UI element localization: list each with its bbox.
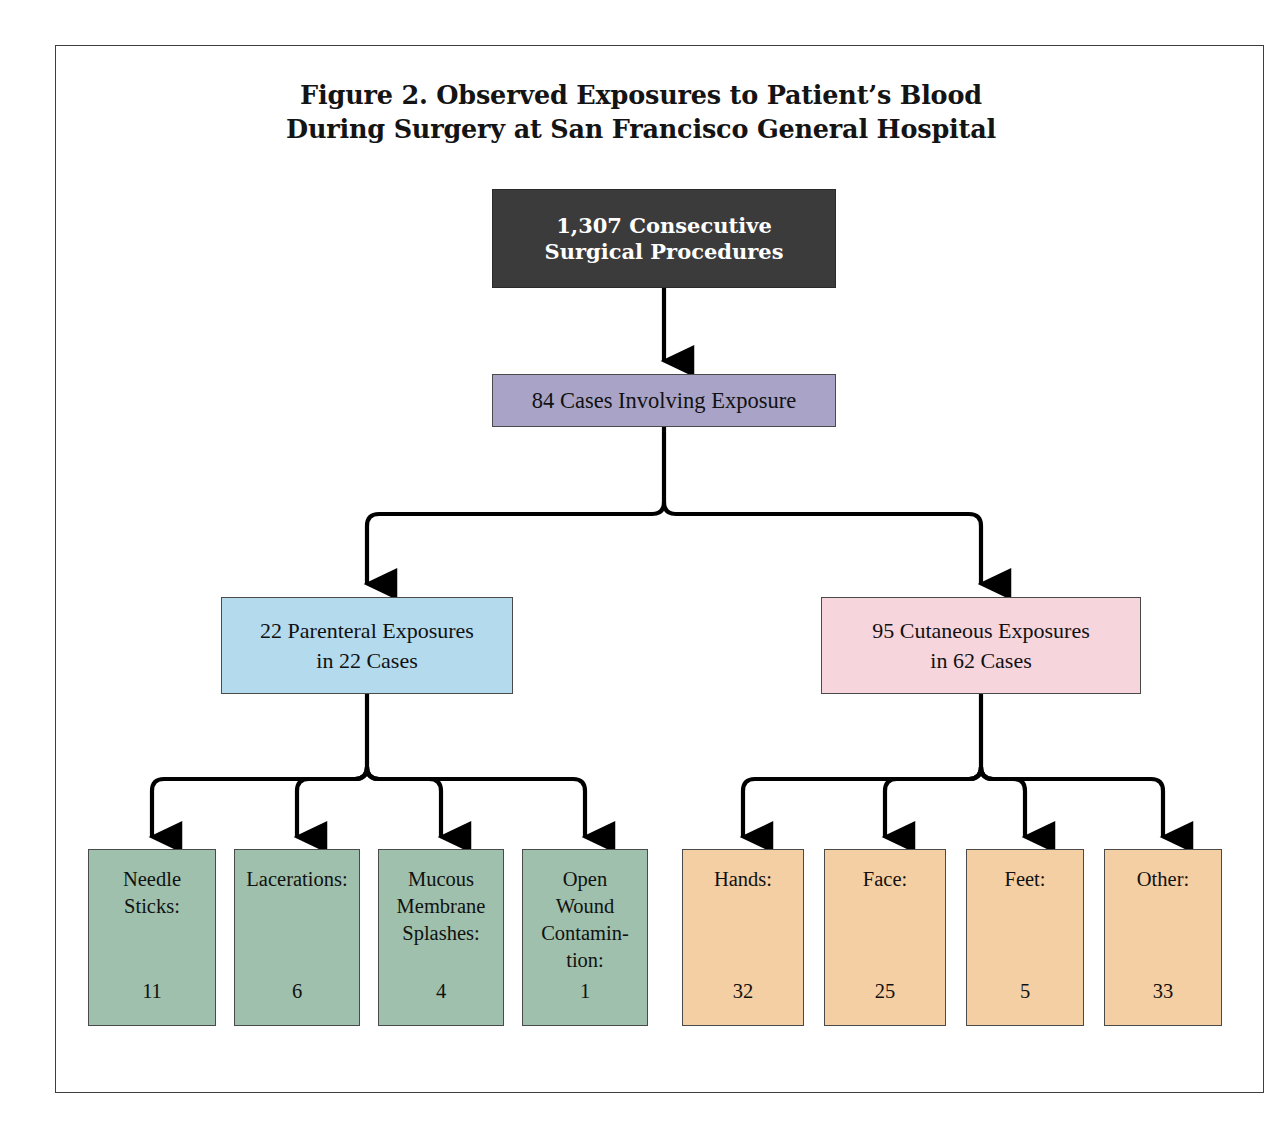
leaf-hands-label: Hands: xyxy=(714,866,772,893)
node-total-procedures-text: 1,307 Consecutive Surgical Procedures xyxy=(544,213,783,265)
figure-container: Figure 2. Observed Exposures to Patient’… xyxy=(0,0,1282,1136)
leaf-other-line-1: Other: xyxy=(1137,866,1189,893)
leaf-other[interactable]: Other: 33 xyxy=(1104,849,1222,1026)
leaf-needle-sticks-label: Needle Sticks: xyxy=(123,866,181,920)
leaf-face-line-1: Face: xyxy=(863,866,907,893)
node-cutaneous-line-1: 95 Cutaneous Exposures xyxy=(872,616,1090,646)
node-cutaneous-exposures[interactable]: 95 Cutaneous Exposures in 62 Cases xyxy=(821,597,1141,694)
leaf-open-wound-contamination-line-3: Contamin- xyxy=(541,920,629,947)
leaf-mucous-membrane-splashes-count: 4 xyxy=(436,978,446,1005)
leaf-open-wound-contamination-count: 1 xyxy=(580,978,590,1005)
figure-title: Figure 2. Observed Exposures to Patient’… xyxy=(0,78,1282,146)
leaf-lacerations-label: Lacerations: xyxy=(246,866,347,893)
node-total-procedures[interactable]: 1,307 Consecutive Surgical Procedures xyxy=(492,189,836,288)
leaf-needle-sticks-count: 11 xyxy=(142,978,162,1005)
leaf-face[interactable]: Face: 25 xyxy=(824,849,946,1026)
leaf-lacerations[interactable]: Lacerations: 6 xyxy=(234,849,360,1026)
leaf-needle-sticks-line-2: Sticks: xyxy=(124,893,180,920)
node-cutaneous-line-2: in 62 Cases xyxy=(930,646,1031,676)
node-cutaneous-text: 95 Cutaneous Exposures in 62 Cases xyxy=(872,616,1090,676)
node-cases-line-1: 84 Cases Involving Exposure xyxy=(532,388,796,414)
leaf-hands[interactable]: Hands: 32 xyxy=(682,849,804,1026)
figure-title-line-1: Figure 2. Observed Exposures to Patient’… xyxy=(0,78,1282,112)
leaf-needle-sticks-line-1: Needle xyxy=(123,866,181,893)
leaf-mucous-membrane-splashes-line-3: Splashes: xyxy=(402,920,479,947)
node-total-procedures-line-1: 1,307 Consecutive xyxy=(556,213,772,239)
leaf-open-wound-contamination-label: Open Wound Contamin- tion: xyxy=(541,866,629,974)
leaf-open-wound-contamination-line-2: Wound xyxy=(556,893,615,920)
leaf-other-count: 33 xyxy=(1153,978,1174,1005)
leaf-hands-line-1: Hands: xyxy=(714,866,772,893)
node-parenteral-text: 22 Parenteral Exposures in 22 Cases xyxy=(260,616,474,676)
leaf-face-label: Face: xyxy=(863,866,907,893)
node-cases-involving-exposure[interactable]: 84 Cases Involving Exposure xyxy=(492,374,836,427)
leaf-feet-count: 5 xyxy=(1020,978,1030,1005)
leaf-mucous-membrane-splashes[interactable]: Mucous Membrane Splashes: 4 xyxy=(378,849,504,1026)
leaf-needle-sticks[interactable]: Needle Sticks: 11 xyxy=(88,849,216,1026)
leaf-lacerations-line-1: Lacerations: xyxy=(246,866,347,893)
leaf-open-wound-contamination[interactable]: Open Wound Contamin- tion: 1 xyxy=(522,849,648,1026)
leaf-open-wound-contamination-line-1: Open xyxy=(563,866,607,893)
node-parenteral-line-2: in 22 Cases xyxy=(316,646,417,676)
leaf-other-label: Other: xyxy=(1137,866,1189,893)
node-parenteral-exposures[interactable]: 22 Parenteral Exposures in 22 Cases xyxy=(221,597,513,694)
leaf-mucous-membrane-splashes-line-1: Mucous xyxy=(408,866,474,893)
leaf-feet[interactable]: Feet: 5 xyxy=(966,849,1084,1026)
leaf-feet-line-1: Feet: xyxy=(1005,866,1046,893)
figure-title-line-2: During Surgery at San Francisco General … xyxy=(0,112,1282,146)
node-parenteral-line-1: 22 Parenteral Exposures xyxy=(260,616,474,646)
leaf-mucous-membrane-splashes-label: Mucous Membrane Splashes: xyxy=(397,866,486,947)
leaf-lacerations-count: 6 xyxy=(292,978,302,1005)
leaf-feet-label: Feet: xyxy=(1005,866,1046,893)
leaf-open-wound-contamination-line-4: tion: xyxy=(566,947,604,974)
leaf-mucous-membrane-splashes-line-2: Membrane xyxy=(397,893,486,920)
leaf-hands-count: 32 xyxy=(733,978,754,1005)
leaf-face-count: 25 xyxy=(875,978,896,1005)
node-total-procedures-line-2: Surgical Procedures xyxy=(544,239,783,265)
node-cases-text: 84 Cases Involving Exposure xyxy=(532,388,796,414)
